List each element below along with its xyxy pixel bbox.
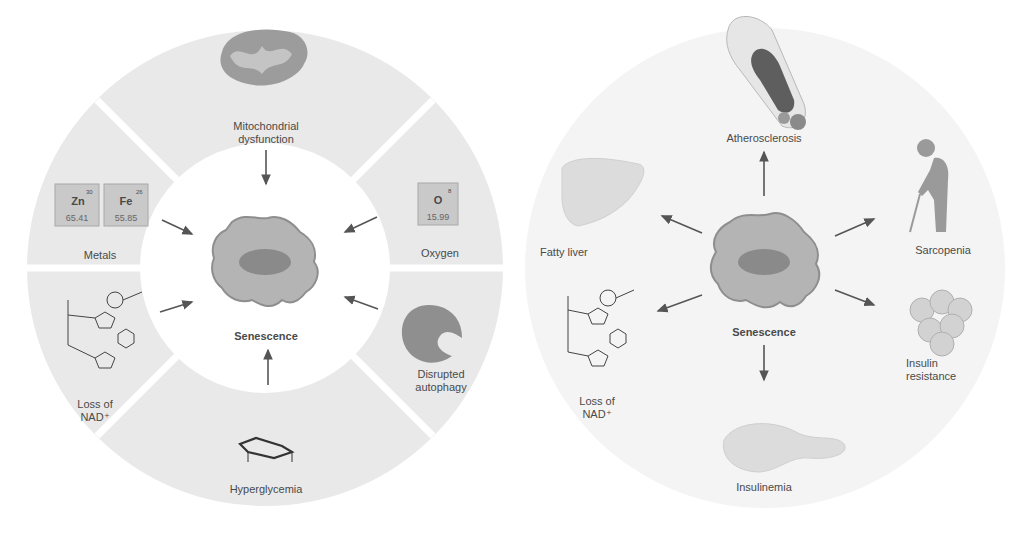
outcomes-panel: Atherosclerosis Sarcopenia Insulin resis…	[510, 0, 1018, 540]
o-symbol: O	[428, 194, 448, 207]
label-insulinemia: Insulinemia	[714, 481, 814, 494]
outcomes-wheel	[510, 0, 1018, 540]
o-mass: 15.99	[420, 211, 456, 224]
label-atherosclerosis: Atherosclerosis	[714, 132, 814, 145]
label-loss-of-nad-right: Loss of NAD⁺	[572, 395, 622, 421]
label-disrupted-autophagy: Disrupted autophagy	[406, 368, 476, 394]
label-metals: Metals	[70, 249, 130, 262]
label-hyperglycemia: Hyperglycemia	[216, 483, 316, 496]
label-insulin-resistance: Insulin resistance	[906, 357, 956, 383]
zn-symbol: Zn	[68, 195, 88, 208]
label-senescence-left: Senescence	[216, 330, 316, 343]
o-atomic-number: 8	[448, 185, 451, 198]
label-senescence-right: Senescence	[714, 326, 814, 339]
label-mitochondrial-dysfunction: Mitochondrial dysfunction	[216, 120, 316, 146]
label-loss-of-nad: Loss of NAD⁺	[70, 398, 120, 424]
zn-mass: 65.41	[58, 212, 96, 225]
label-oxygen: Oxygen	[410, 247, 470, 260]
fe-atomic-number: 26	[136, 186, 143, 199]
fe-mass: 55.85	[107, 212, 145, 225]
fe-symbol: Fe	[116, 195, 136, 208]
label-sarcopenia: Sarcopenia	[908, 244, 978, 257]
label-fatty-liver: Fatty liver	[540, 246, 620, 259]
causes-panel: 30 Zn 65.41 26 Fe 55.85 8 O 15.99 Mitoch…	[0, 0, 510, 540]
causes-wheel	[0, 0, 510, 540]
